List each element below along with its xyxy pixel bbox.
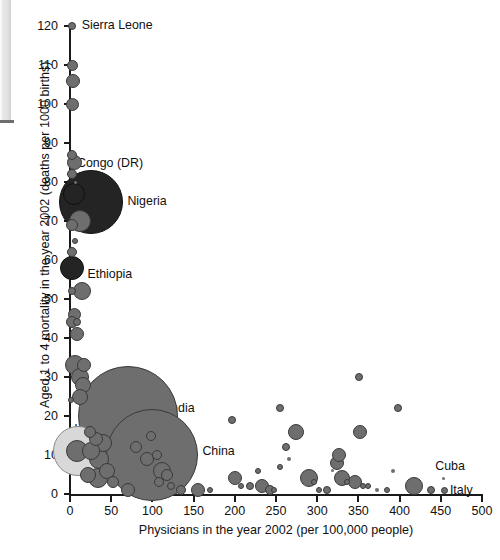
x-axis-tick <box>440 496 442 502</box>
x-axis-tick-label: 200 <box>215 505 255 518</box>
data-bubble[interactable] <box>441 487 448 494</box>
data-bubble[interactable] <box>68 22 76 30</box>
scan-edge-artifact <box>0 0 11 122</box>
data-bubble[interactable] <box>66 98 79 111</box>
data-bubble[interactable] <box>84 426 96 438</box>
data-bubble[interactable] <box>288 424 304 440</box>
data-bubble[interactable] <box>331 469 334 472</box>
bubble-annotation-label: Nigeria <box>127 195 166 207</box>
bubble-annotation-label: Congo (DR) <box>77 157 143 169</box>
y-axis-tick-label: 0 <box>28 488 58 501</box>
x-axis-tick <box>234 496 236 502</box>
x-axis-tick-label: 400 <box>380 505 420 518</box>
bubble-annotation-label: China <box>202 445 234 457</box>
bubble-annotation-label: Ethiopia <box>87 268 132 280</box>
x-axis-tick-label: 50 <box>91 505 131 518</box>
x-axis-tick-label: 450 <box>421 505 461 518</box>
x-axis-tick-label: 250 <box>256 505 296 518</box>
y-axis-tick-label: 60 <box>28 254 58 267</box>
bubble-annotation-label: Italy <box>450 484 473 496</box>
y-axis-tick-label: 40 <box>28 332 58 345</box>
data-bubble[interactable] <box>152 450 162 460</box>
data-bubble[interactable] <box>66 219 78 231</box>
y-axis-label: Aged 1 to 4 mortality in the year 2002 (… <box>38 78 52 408</box>
data-bubble[interactable] <box>72 238 78 244</box>
data-bubble[interactable] <box>375 488 379 492</box>
y-axis-tick-label: 50 <box>28 293 58 306</box>
data-bubble[interactable] <box>353 425 367 439</box>
x-axis-label: Physicians in the year 2002 (per 100,000… <box>70 523 482 537</box>
scan-edge-mark <box>0 120 14 123</box>
data-bubble[interactable] <box>74 181 77 184</box>
y-axis-tick-label: 70 <box>28 215 58 228</box>
data-bubble[interactable] <box>68 287 76 295</box>
bubble-annotation-label: Cuba <box>435 460 465 472</box>
x-axis-tick <box>69 496 71 502</box>
data-bubble[interactable] <box>146 431 156 441</box>
x-axis-tick-label: 150 <box>174 505 214 518</box>
data-bubble[interactable] <box>391 469 395 473</box>
y-axis-tick-label: 90 <box>28 137 58 150</box>
bubble-annotation-label: Sierra Leone <box>82 19 153 31</box>
data-bubble[interactable] <box>72 389 88 405</box>
data-bubble[interactable] <box>121 483 135 497</box>
data-bubble[interactable] <box>442 477 445 480</box>
data-bubble[interactable] <box>167 482 175 490</box>
data-bubble[interactable] <box>130 441 142 453</box>
y-axis-tick-label: 100 <box>28 98 58 111</box>
data-bubble[interactable] <box>316 487 322 493</box>
data-bubble[interactable] <box>255 468 261 474</box>
data-bubble[interactable] <box>80 467 96 483</box>
x-axis-tick <box>399 496 401 502</box>
x-axis-tick-label: 350 <box>338 505 378 518</box>
y-axis-tick-label: 120 <box>28 20 58 33</box>
x-axis-tick-label: 500 <box>462 505 500 518</box>
y-axis-tick-label: 80 <box>28 176 58 189</box>
x-axis-tick <box>110 496 112 502</box>
data-bubble[interactable] <box>427 486 435 494</box>
x-axis-tick <box>275 496 277 502</box>
x-axis-tick <box>316 496 318 502</box>
x-axis-tick-label: 0 <box>50 505 90 518</box>
data-bubble[interactable] <box>67 60 78 71</box>
data-bubble[interactable] <box>66 74 80 88</box>
y-axis-tick-label: 110 <box>28 59 58 72</box>
data-bubble[interactable] <box>63 183 85 205</box>
y-axis-tick-label: 20 <box>28 410 58 423</box>
x-axis-tick <box>193 496 195 502</box>
x-axis-tick-label: 300 <box>297 505 337 518</box>
data-bubble[interactable] <box>191 483 205 497</box>
x-axis-tick <box>481 496 483 502</box>
data-bubble[interactable] <box>277 464 283 470</box>
data-bubble[interactable] <box>246 482 254 490</box>
x-axis-tick <box>357 496 359 502</box>
y-axis-tick-label: 30 <box>28 371 58 384</box>
data-bubble[interactable] <box>67 150 77 160</box>
chart-root: Aged 1 to 4 mortality in the year 2002 (… <box>0 0 500 560</box>
data-bubble[interactable] <box>228 416 236 424</box>
x-axis-tick-label: 100 <box>132 505 172 518</box>
